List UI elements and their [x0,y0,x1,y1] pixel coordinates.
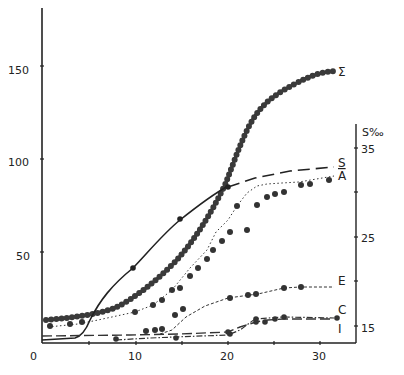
y2-tick-label-35: 35 [361,143,375,156]
label-s: S [338,156,346,170]
y2-tick-label-15: 15 [361,322,375,335]
x-tick-label-10: 10 [128,350,142,363]
y2-axis-title: S‰ [362,126,384,139]
x-tick-label-20: 20 [220,350,234,363]
series-a [47,176,334,329]
y2-tick-label-25: 25 [361,232,375,245]
label-c: C [338,303,346,317]
y-tick-label-150: 150 [8,64,29,77]
x-tick-label-0: 0 [30,350,37,363]
x-tick-label-30: 30 [312,350,326,363]
label-sigma: Σ [338,65,346,79]
chart: 50 100 150 0 10 20 30 S‰ 35 25 15 Σ S [0,0,404,375]
y-tick-label-100: 100 [8,156,29,169]
y-tick-label-50: 50 [16,250,30,263]
series-c [113,314,340,342]
label-i: I [338,322,342,336]
series-sigma [46,71,334,320]
series-i [42,316,334,336]
label-a: A [338,169,347,183]
label-e: E [338,274,346,288]
